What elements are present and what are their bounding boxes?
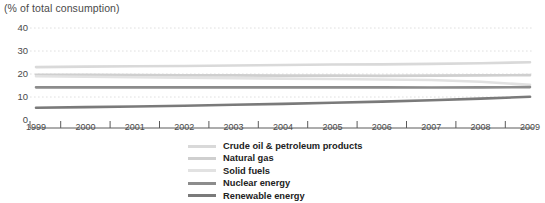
legend-swatch-icon (188, 169, 216, 172)
legend-item[interactable]: Nuclear energy (188, 177, 448, 189)
x-tick-label: 2003 (212, 122, 256, 132)
chart-legend: Crude oil & petroleum productsNatural ga… (188, 140, 448, 202)
x-tick-label: 2002 (162, 122, 206, 132)
plot-area (0, 18, 538, 130)
series-line-2 (36, 76, 530, 85)
legend-swatch-icon (188, 145, 216, 148)
legend-swatch-icon (188, 182, 216, 185)
x-tick-label: 2006 (360, 122, 404, 132)
line-chart-svg (0, 18, 538, 130)
x-tick-label: 2004 (261, 122, 305, 132)
y-tick-label: 20 (2, 68, 28, 79)
y-tick-label: 40 (2, 22, 28, 33)
series-line-4 (36, 97, 530, 108)
series-line-1 (36, 75, 530, 76)
legend-swatch-icon (188, 194, 216, 197)
legend-item[interactable]: Solid fuels (188, 165, 448, 177)
legend-item[interactable]: Crude oil & petroleum products (188, 140, 448, 152)
y-tick-label: 10 (2, 91, 28, 102)
x-tick-label: 2000 (63, 122, 107, 132)
legend-item[interactable]: Renewable energy (188, 190, 448, 202)
legend-label: Nuclear energy (223, 177, 290, 189)
series-line-0 (36, 62, 530, 67)
x-tick-label: 2008 (459, 122, 503, 132)
x-tick-label: 2005 (310, 122, 354, 132)
legend-swatch-icon (188, 157, 216, 160)
y-axis-title: (% of total consumption) (4, 2, 120, 14)
x-tick-label: 2007 (409, 122, 453, 132)
x-axis-ticks: 1999200020012002200320042005200620072008… (0, 122, 538, 136)
x-tick-label: 2009 (508, 122, 545, 132)
legend-label: Natural gas (223, 152, 274, 164)
x-tick-label: 2001 (113, 122, 157, 132)
legend-item[interactable]: Natural gas (188, 152, 448, 164)
y-tick-label: 30 (2, 45, 28, 56)
legend-label: Solid fuels (223, 165, 270, 177)
x-tick-label: 1999 (14, 122, 58, 132)
legend-label: Crude oil & petroleum products (223, 140, 362, 152)
legend-label: Renewable energy (223, 190, 305, 202)
